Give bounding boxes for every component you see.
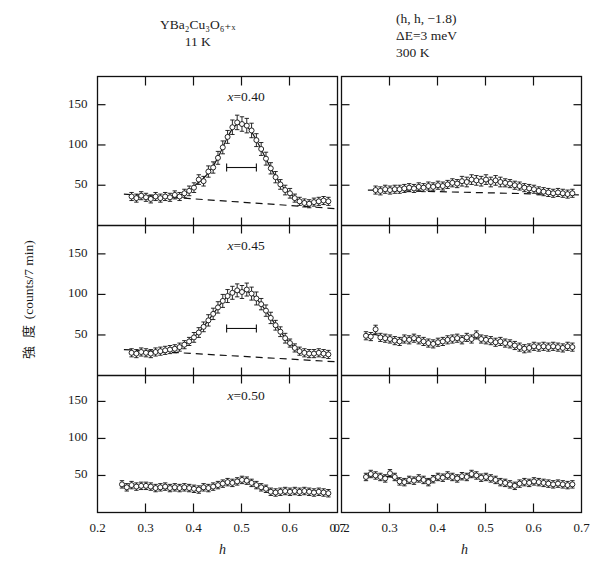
- data-point: [196, 487, 201, 492]
- data-point: [268, 489, 273, 494]
- data-point: [541, 189, 546, 194]
- data-point: [287, 489, 292, 494]
- data-point: [383, 187, 388, 192]
- data-point: [421, 477, 426, 482]
- y-tick-label: 50: [54, 326, 88, 342]
- figure-neutron-scattering-panels: YBa₂Cu₃O₆₊ₓ 11 K (h, h, −1.8) ΔE=3 meV 3…: [0, 0, 599, 582]
- data-point: [153, 486, 158, 491]
- data-point: [402, 186, 407, 191]
- data-point: [397, 187, 402, 192]
- data-point: [407, 185, 412, 190]
- data-point: [158, 485, 163, 490]
- left-temperature-label: 11 K: [160, 33, 235, 50]
- data-point: [124, 485, 129, 490]
- data-point: [536, 345, 541, 350]
- data-point: [153, 349, 158, 354]
- data-point: [230, 290, 235, 295]
- data-point: [527, 186, 532, 191]
- data-point: [220, 298, 225, 303]
- data-point: [196, 330, 201, 335]
- data-point: [426, 341, 431, 346]
- data-point: [187, 339, 192, 344]
- data-point: [464, 335, 469, 340]
- data-point: [522, 480, 527, 485]
- panel-tag-x040-11K: x=0.40: [228, 89, 265, 105]
- data-point: [273, 323, 278, 328]
- data-point: [143, 483, 148, 488]
- data-point: [435, 183, 440, 188]
- data-point: [273, 175, 278, 180]
- data-point: [287, 191, 292, 196]
- data-point: [455, 336, 460, 341]
- x-tick-label: 0.6: [517, 520, 551, 536]
- data-point: [560, 345, 565, 350]
- data-point: [143, 195, 148, 200]
- data-point: [235, 120, 240, 125]
- data-point: [450, 337, 455, 342]
- data-point: [536, 480, 541, 485]
- data-point: [326, 491, 331, 496]
- data-point: [244, 478, 249, 483]
- energy-transfer-label: ΔE=3 meV: [396, 27, 457, 44]
- data-point: [278, 489, 283, 494]
- data-point: [383, 476, 388, 481]
- data-point: [411, 478, 416, 483]
- data-point: [387, 337, 392, 342]
- x-tick-label: 0.2: [81, 520, 115, 536]
- data-point: [316, 350, 321, 355]
- data-point: [392, 474, 397, 479]
- data-point: [148, 351, 153, 356]
- x-tick-label: 0.3: [129, 520, 163, 536]
- data-point: [368, 334, 373, 339]
- data-point: [503, 480, 508, 485]
- data-point: [215, 155, 220, 160]
- data-point: [244, 287, 249, 292]
- data-point: [431, 341, 436, 346]
- data-point: [560, 191, 565, 196]
- data-point: [431, 477, 436, 482]
- x-tick-label: 0.2: [325, 520, 359, 536]
- data-point: [373, 188, 378, 193]
- x-tick-label: 0.6: [273, 520, 307, 536]
- data-point: [182, 191, 187, 196]
- data-point: [503, 341, 508, 346]
- y-axis-label: 強 度 (counts/7 min): [18, 185, 37, 415]
- y-tick-label: 150: [54, 245, 88, 261]
- data-point: [479, 179, 484, 184]
- data-point: [311, 490, 316, 495]
- data-point: [187, 486, 192, 491]
- data-point: [311, 351, 316, 356]
- data-point: [407, 337, 412, 342]
- data-point: [321, 198, 326, 203]
- data-point: [206, 318, 211, 323]
- data-point: [302, 489, 307, 494]
- y-tick-label: 50: [54, 466, 88, 482]
- data-point: [551, 344, 556, 349]
- data-point: [201, 324, 206, 329]
- data-point: [440, 339, 445, 344]
- data-point: [411, 186, 416, 191]
- data-point: [488, 476, 493, 481]
- data-point: [158, 196, 163, 201]
- data-point: [297, 199, 302, 204]
- data-point: [244, 123, 249, 128]
- data-point: [363, 474, 368, 479]
- data-point: [440, 475, 445, 480]
- data-point: [259, 146, 264, 151]
- data-point: [182, 485, 187, 490]
- data-point: [555, 345, 560, 350]
- y-tick-label: 150: [54, 392, 88, 408]
- data-point: [570, 191, 575, 196]
- data-point: [163, 194, 168, 199]
- data-point: [177, 345, 182, 350]
- data-point: [464, 474, 469, 479]
- data-point: [311, 200, 316, 205]
- data-point: [517, 345, 522, 350]
- data-point: [527, 480, 532, 485]
- data-point: [570, 482, 575, 487]
- right-column-header: (h, h, −1.8) ΔE=3 meV 300 K: [396, 10, 457, 61]
- data-point: [551, 482, 556, 487]
- data-point: [129, 483, 134, 488]
- data-point: [297, 489, 302, 494]
- data-point: [220, 481, 225, 486]
